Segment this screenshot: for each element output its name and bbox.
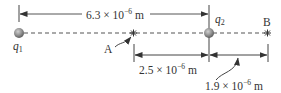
charge-q1-label: q1 xyxy=(13,41,23,54)
point-a-asterisk-icon xyxy=(130,30,137,37)
charge-q2-label: q2 xyxy=(215,14,225,27)
q1-label-sub: 1 xyxy=(19,45,23,54)
dim-q1-q2-label: 6.3 × 10−6 m xyxy=(86,8,144,22)
dim-a-q2-exponent: −6 xyxy=(177,62,185,71)
point-a-label: A xyxy=(104,44,112,56)
dim-a-q2-unit: m xyxy=(185,64,197,76)
dim-q2-b-exponent: −6 xyxy=(243,78,251,87)
dim-q2-b-label: 1.9 × 10−6 m xyxy=(205,79,263,93)
dim-q1-q2-exponent: −6 xyxy=(124,7,132,16)
dim-q2-b-leader-arrow xyxy=(216,58,238,80)
dim-a-q2-label: 2.5 × 10−6 m xyxy=(139,63,197,77)
charge-q2-sphere xyxy=(204,28,214,38)
point-a-leader-arrow xyxy=(115,37,131,47)
charge-q1-sphere xyxy=(14,28,24,38)
q2-label-sub: 2 xyxy=(221,18,225,27)
dim-q1-q2-unit: m xyxy=(132,9,144,21)
point-b-asterisk-icon xyxy=(264,30,271,37)
dim-a-q2-mantissa: 2.5 × 10 xyxy=(139,64,177,76)
dim-q2-b-mantissa: 1.9 × 10 xyxy=(205,80,243,92)
dim-q1-q2-mantissa: 6.3 × 10 xyxy=(86,9,124,21)
point-b-label: B xyxy=(263,17,271,29)
dim-q2-b-unit: m xyxy=(251,80,263,92)
